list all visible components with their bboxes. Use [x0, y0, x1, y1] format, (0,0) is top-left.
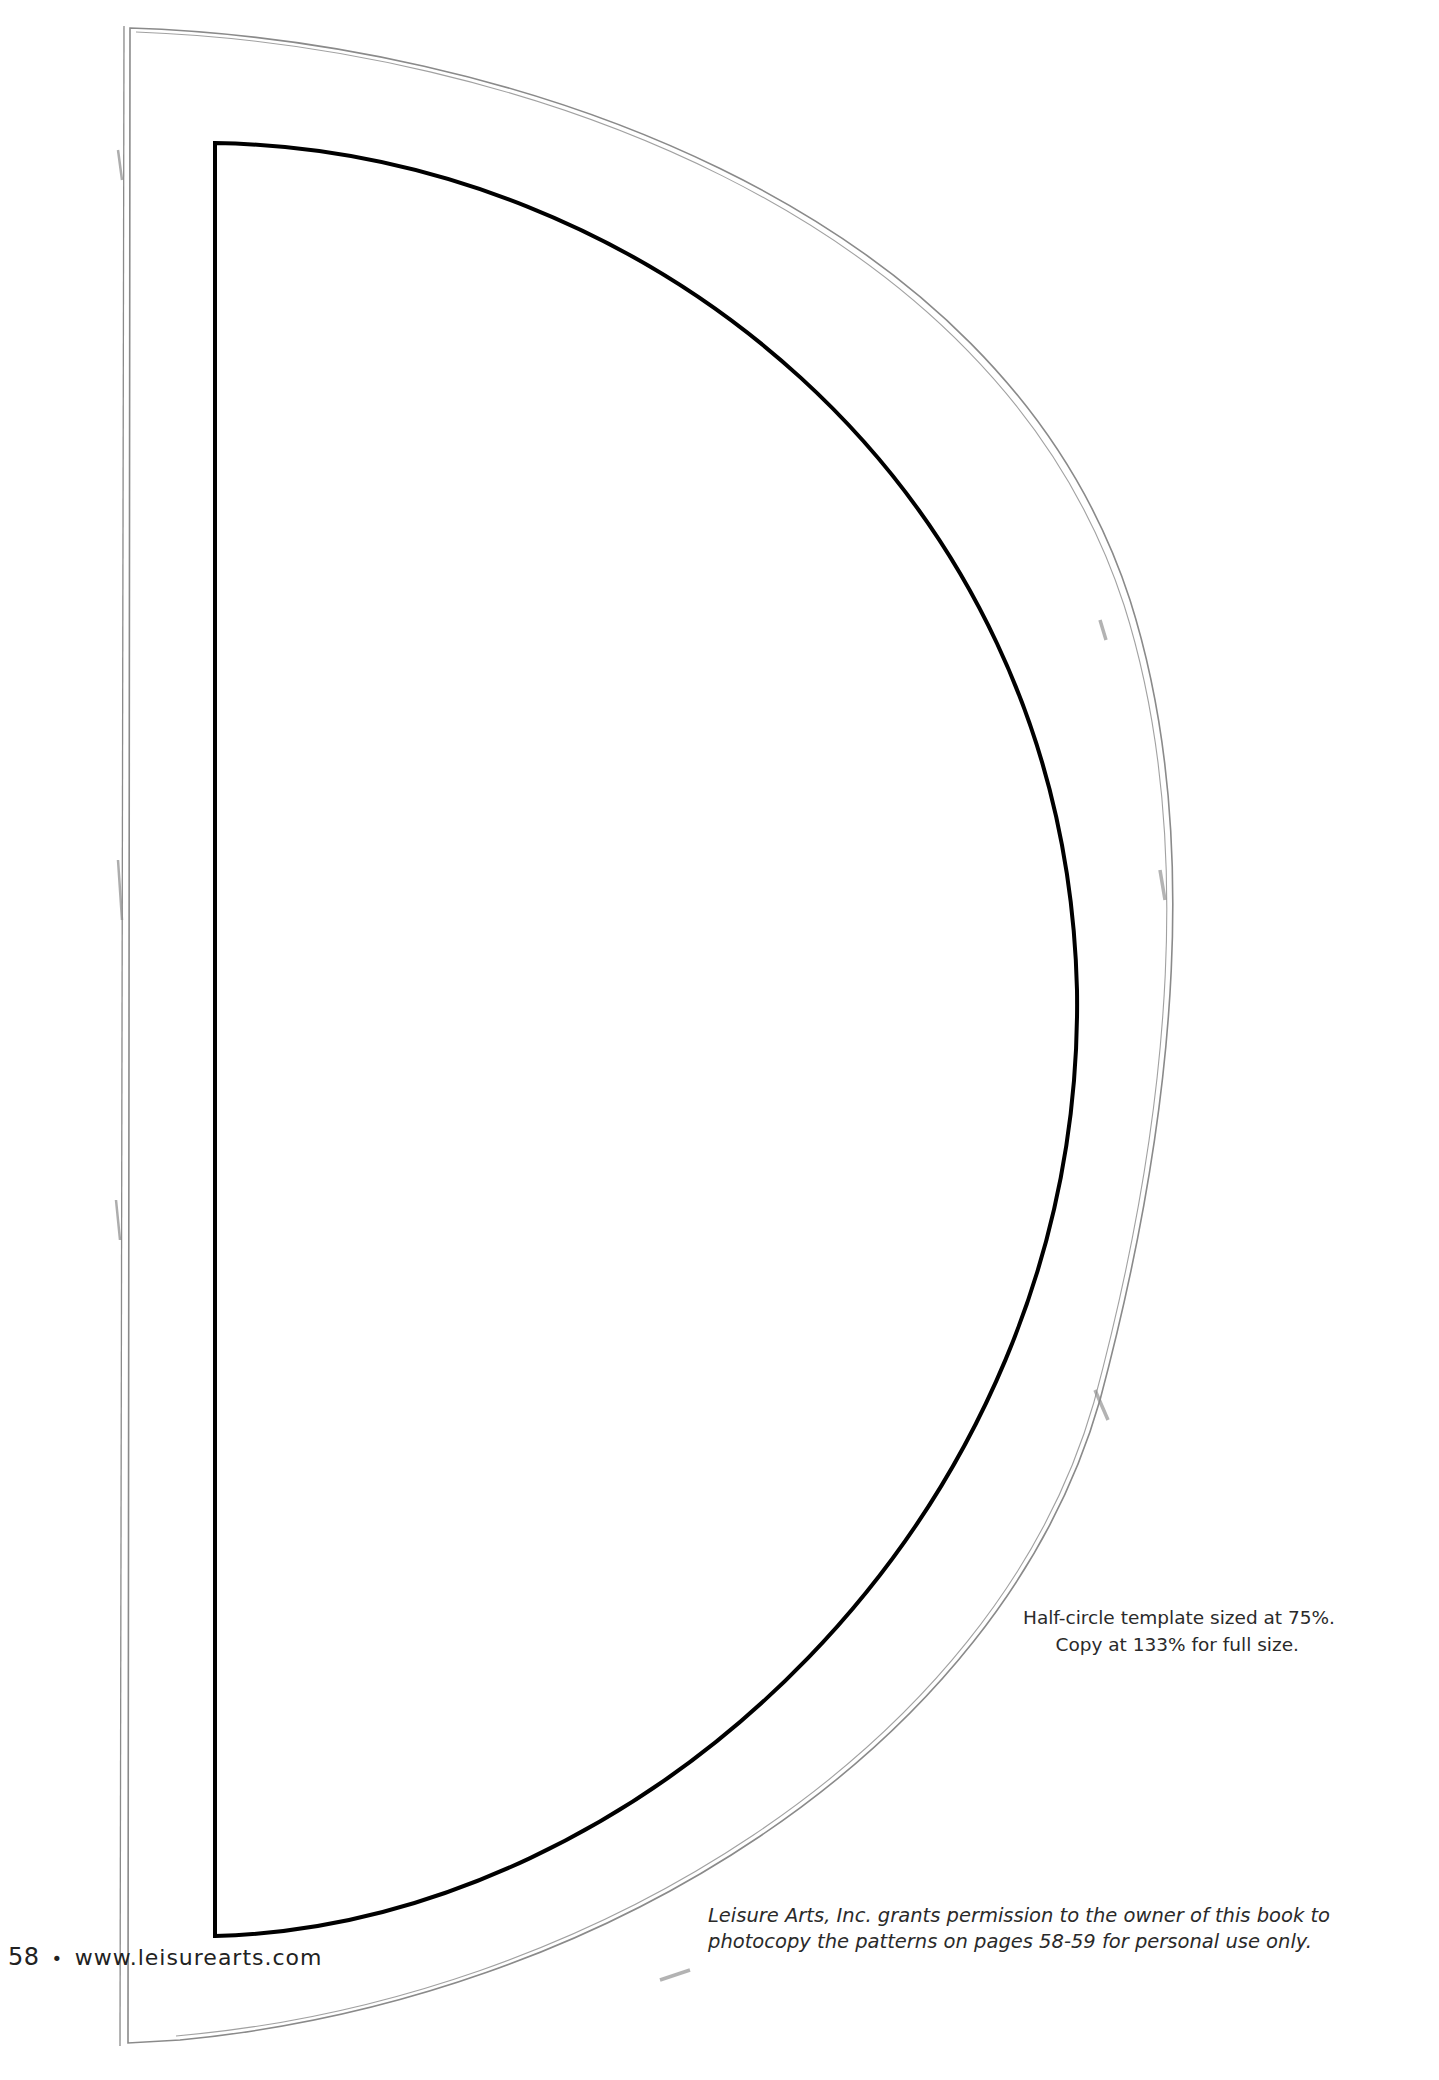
template-size-note: Half-circle template sized at 75%. Copy … — [985, 1604, 1335, 1658]
page-footer: 58•www.leisurearts.com — [8, 1943, 322, 1971]
website-link[interactable]: www.leisurearts.com — [75, 1945, 323, 1970]
permission-notice: Leisure Arts, Inc. grants permission to … — [708, 1903, 1388, 1955]
size-note-line-1: Half-circle template sized at 75%. — [985, 1604, 1335, 1631]
inner-cut-outline — [215, 143, 1077, 1936]
permission-line-2: photocopy the patterns on pages 58-59 fo… — [708, 1929, 1388, 1955]
permission-line-1: Leisure Arts, Inc. grants permission to … — [708, 1903, 1388, 1929]
page-number: 58 — [8, 1943, 40, 1971]
half-circle-template-drawing — [0, 0, 1439, 2080]
size-note-line-2: Copy at 133% for full size. — [985, 1631, 1335, 1658]
sketched-outer-outline — [116, 26, 1173, 2046]
bullet-separator: • — [52, 1948, 63, 1969]
